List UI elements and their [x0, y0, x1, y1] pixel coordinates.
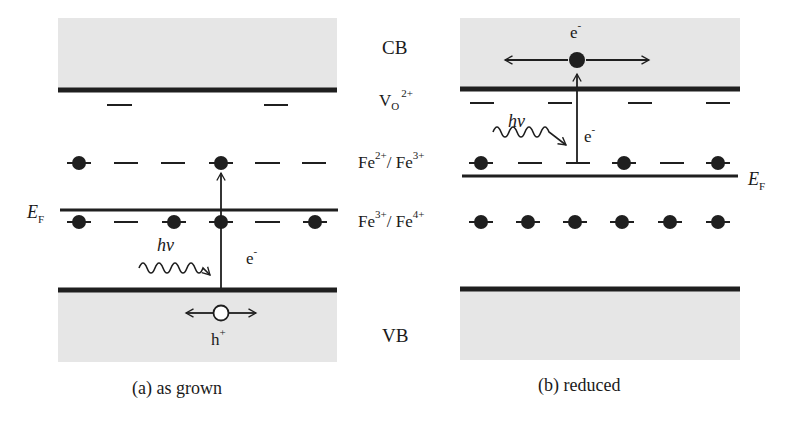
- cb-electron-label-b: e-: [570, 24, 581, 41]
- label-oxygen-vacancy: VO2+: [379, 92, 413, 109]
- fermi-label-b: EF: [748, 170, 765, 188]
- photon-label-b: hν: [508, 112, 525, 130]
- fe2-fe3-electrons-a: [72, 156, 228, 170]
- conduction-band-shading-b: [460, 18, 740, 88]
- electron-label-b: e-: [584, 128, 595, 145]
- fe2-fe3-electrons-b: [474, 156, 725, 170]
- fe3-fe4-electrons-b: [474, 215, 725, 229]
- valence-band-shading-b: [460, 291, 740, 360]
- label-conduction-band: CB: [382, 38, 407, 57]
- valence-band-shading-a: [58, 292, 337, 362]
- electron-label-a: e-: [246, 250, 257, 267]
- hole: [214, 306, 229, 321]
- label-fe3-fe4: Fe3+/ Fe4+: [358, 213, 424, 230]
- fe3-fe4-electrons-a: [72, 215, 322, 229]
- caption-a: (a) as grown: [132, 378, 222, 399]
- label-valence-band: VB: [382, 326, 408, 345]
- band-diagram: [0, 0, 785, 422]
- hole-label: h+: [211, 331, 226, 348]
- label-fe2-fe3: Fe2+/ Fe3+: [358, 154, 424, 171]
- panel-a-as-grown: [58, 18, 338, 362]
- conduction-band-shading-a: [58, 18, 337, 89]
- fermi-label-a: EF: [27, 203, 44, 221]
- photon-wave-a: [139, 263, 210, 275]
- conduction-electron: [569, 52, 585, 68]
- photon-label-a: hν: [157, 236, 174, 254]
- caption-b: (b) reduced: [538, 375, 620, 396]
- photon-wave-b: [493, 127, 566, 145]
- panel-b-reduced: [460, 18, 740, 360]
